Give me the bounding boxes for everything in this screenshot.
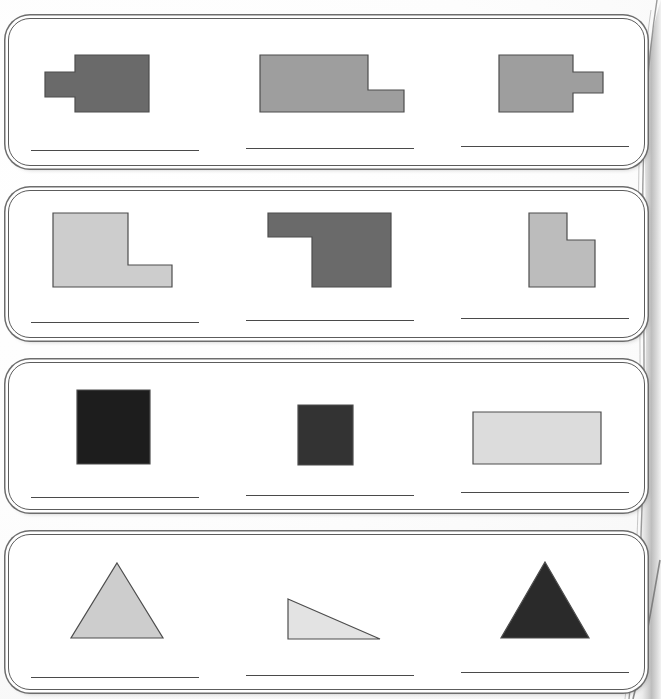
triangle-right-angle-pale[interactable] bbox=[288, 599, 380, 639]
shape-panel-1[interactable] bbox=[8, 18, 645, 166]
shape-panel-2[interactable] bbox=[8, 190, 645, 338]
triangle-isosceles-light-polygon bbox=[71, 563, 163, 638]
l-shape-notch-top-right[interactable] bbox=[53, 213, 172, 287]
rectangle-wide-pale-svg bbox=[473, 412, 601, 464]
l-shape-notch-top-right-narrow-svg bbox=[529, 213, 595, 287]
answer-line-3-2[interactable] bbox=[246, 495, 414, 496]
rectangle-wide-pale-polygon bbox=[473, 412, 601, 464]
l-shape-notch-top-right-narrow-polygon bbox=[529, 213, 595, 287]
triangle-right-angle-pale-polygon bbox=[288, 599, 380, 639]
panel-2-shapes bbox=[9, 191, 644, 337]
l-shape-notch-top-right-svg bbox=[53, 213, 172, 287]
triangle-isosceles-dark-svg bbox=[501, 562, 589, 638]
l-shape-step-down-right-polygon bbox=[260, 55, 404, 112]
answer-line-1-2[interactable] bbox=[246, 148, 414, 149]
rectangle-wide-pale[interactable] bbox=[473, 412, 601, 464]
triangle-isosceles-dark-polygon bbox=[501, 562, 589, 638]
l-shape-notch-bottom-left-svg bbox=[268, 213, 391, 287]
answer-line-3-1[interactable] bbox=[31, 497, 199, 498]
shape-panel-3[interactable] bbox=[8, 362, 645, 510]
panel-3-shapes bbox=[9, 363, 644, 509]
rectangle-with-left-tab-polygon bbox=[45, 55, 149, 112]
panel-4-shapes bbox=[9, 535, 644, 689]
square-small-dark-svg bbox=[298, 405, 353, 465]
l-shape-step-down-right[interactable] bbox=[260, 55, 404, 112]
l-shape-notch-bottom-left-polygon bbox=[268, 213, 391, 287]
l-shape-step-down-right-svg bbox=[260, 55, 404, 112]
triangle-isosceles-light[interactable] bbox=[71, 563, 163, 638]
square-small-dark-polygon bbox=[298, 405, 353, 465]
square-large-dark-polygon bbox=[77, 390, 150, 464]
panel-1-shapes bbox=[9, 19, 644, 165]
answer-line-2-2[interactable] bbox=[246, 320, 414, 321]
shape-panel-4[interactable] bbox=[8, 534, 645, 690]
answer-line-4-2[interactable] bbox=[246, 675, 414, 676]
answer-line-2-1[interactable] bbox=[31, 322, 199, 323]
triangle-isosceles-light-svg bbox=[71, 563, 163, 638]
rectangle-with-right-tab[interactable] bbox=[499, 55, 603, 112]
rectangle-with-right-tab-polygon bbox=[499, 55, 603, 112]
answer-line-4-1[interactable] bbox=[31, 677, 199, 678]
answer-line-3-3[interactable] bbox=[461, 492, 629, 493]
answer-line-4-3[interactable] bbox=[461, 672, 629, 673]
rectangle-with-left-tab-svg bbox=[45, 55, 149, 112]
l-shape-notch-top-right-narrow[interactable] bbox=[529, 213, 595, 287]
rectangle-with-right-tab-svg bbox=[499, 55, 603, 112]
answer-line-2-3[interactable] bbox=[461, 318, 629, 319]
l-shape-notch-bottom-left[interactable] bbox=[268, 213, 391, 287]
rectangle-with-left-tab[interactable] bbox=[45, 55, 149, 112]
square-large-dark[interactable] bbox=[77, 390, 150, 464]
square-small-dark[interactable] bbox=[298, 405, 353, 465]
square-large-dark-svg bbox=[77, 390, 150, 464]
answer-line-1-3[interactable] bbox=[461, 146, 629, 147]
triangle-isosceles-dark[interactable] bbox=[501, 562, 589, 638]
l-shape-notch-top-right-polygon bbox=[53, 213, 172, 287]
triangle-right-angle-pale-svg bbox=[288, 599, 380, 639]
answer-line-1-1[interactable] bbox=[31, 150, 199, 151]
